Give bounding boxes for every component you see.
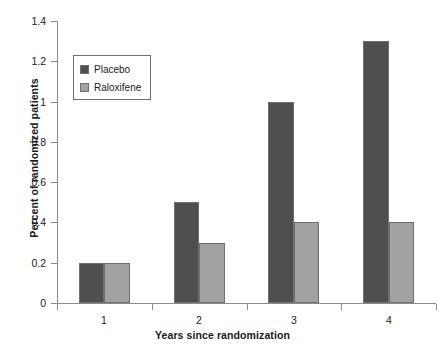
y-tick-label: 0.8 bbox=[0, 137, 46, 147]
bar-placebo-year-2 bbox=[174, 202, 200, 303]
x-axis-title: Years since randomization bbox=[0, 329, 445, 341]
y-tick-label: 1.4 bbox=[0, 16, 46, 26]
bar-raloxifene-year-3 bbox=[294, 222, 320, 303]
x-tick-label: 2 bbox=[179, 315, 219, 326]
y-axis-title: Percent of randomized patients bbox=[28, 38, 40, 278]
x-tick-mark bbox=[436, 304, 437, 310]
x-tick-mark bbox=[341, 304, 342, 310]
x-tick-label: 3 bbox=[274, 315, 314, 326]
bar-chart: Percent of randomized patients 00.20.40.… bbox=[0, 0, 445, 344]
y-tick-label: 0.6 bbox=[0, 177, 46, 187]
x-tick-label: 1 bbox=[84, 315, 124, 326]
bar-raloxifene-year-2 bbox=[199, 243, 225, 303]
x-tick-mark bbox=[57, 304, 58, 310]
y-tick-label: 0.4 bbox=[0, 217, 46, 227]
bar-placebo-year-3 bbox=[268, 102, 294, 303]
legend-label-placebo: Placebo bbox=[94, 64, 130, 75]
legend-swatch-icon-raloxifene bbox=[80, 83, 89, 92]
bar-raloxifene-year-1 bbox=[104, 263, 130, 303]
x-tick-label: 4 bbox=[369, 315, 409, 326]
y-tick-label: 1.2 bbox=[0, 56, 46, 66]
y-tick-label: 0 bbox=[0, 298, 46, 308]
legend-item-placebo: Placebo bbox=[80, 61, 150, 78]
legend-swatch-icon-placebo bbox=[80, 65, 89, 74]
chart-legend: Placebo Raloxifene bbox=[73, 55, 151, 100]
y-tick-label: 0.2 bbox=[0, 258, 46, 268]
bar-raloxifene-year-4 bbox=[389, 222, 415, 303]
y-tick-label: 1 bbox=[0, 97, 46, 107]
bar-placebo-year-4 bbox=[363, 41, 389, 303]
bar-placebo-year-1 bbox=[79, 263, 105, 303]
x-tick-mark bbox=[152, 304, 153, 310]
legend-item-raloxifene: Raloxifene bbox=[80, 79, 150, 96]
x-tick-mark bbox=[247, 304, 248, 310]
legend-label-raloxifene: Raloxifene bbox=[94, 82, 141, 93]
